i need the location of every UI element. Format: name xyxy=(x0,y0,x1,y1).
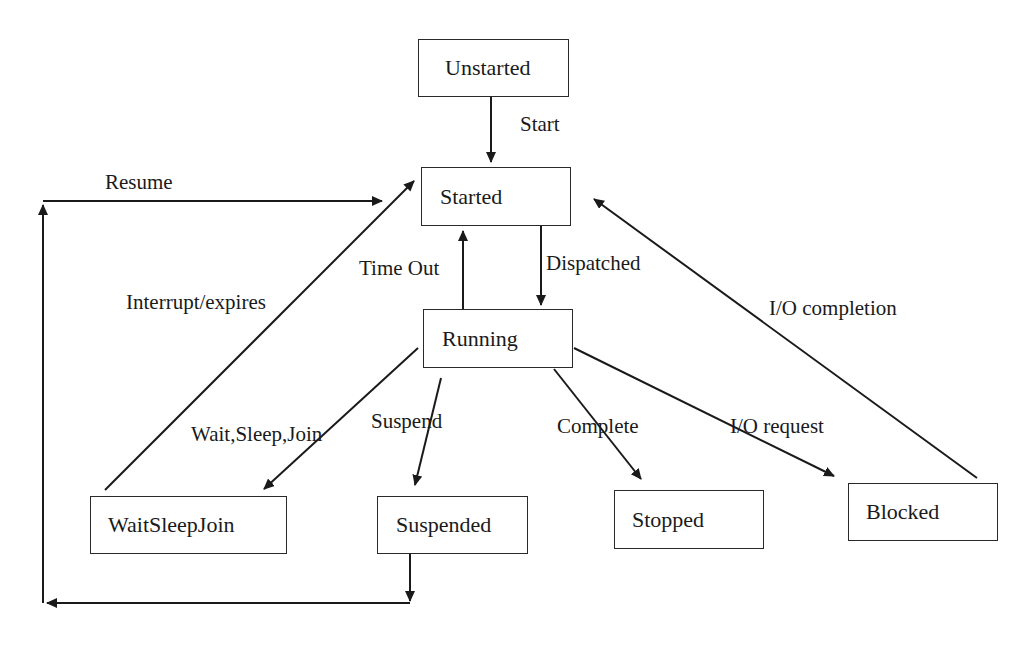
label-start: Start xyxy=(520,114,560,135)
state-label: Started xyxy=(440,184,502,210)
state-label: Unstarted xyxy=(445,55,531,81)
label-resume: Resume xyxy=(105,172,173,193)
state-label: Blocked xyxy=(866,499,939,525)
label-interrupt-expires: Interrupt/expires xyxy=(126,292,266,313)
label-complete: Complete xyxy=(557,416,639,437)
state-running: Running xyxy=(423,309,573,368)
label-suspend: Suspend xyxy=(371,411,442,432)
label-dispatched: Dispatched xyxy=(546,253,640,274)
state-label: Stopped xyxy=(632,507,704,533)
state-blocked: Blocked xyxy=(848,483,998,541)
state-suspended: Suspended xyxy=(377,496,528,554)
thread-state-diagram: Unstarted Started Running WaitSleepJoin … xyxy=(0,0,1030,651)
label-io-request: I/O request xyxy=(730,416,824,437)
state-stopped: Stopped xyxy=(614,490,764,549)
label-wait-sleep-join: Wait,Sleep,Join xyxy=(191,424,322,445)
state-unstarted: Unstarted xyxy=(418,39,569,97)
state-waitsleepjoin: WaitSleepJoin xyxy=(90,496,287,554)
label-time-out: Time Out xyxy=(359,258,439,279)
state-label: WaitSleepJoin xyxy=(108,512,235,538)
state-label: Suspended xyxy=(396,512,491,538)
state-label: Running xyxy=(442,326,518,352)
label-io-completion: I/O completion xyxy=(769,298,897,319)
state-started: Started xyxy=(421,167,571,226)
arrow-io-request xyxy=(574,348,834,476)
